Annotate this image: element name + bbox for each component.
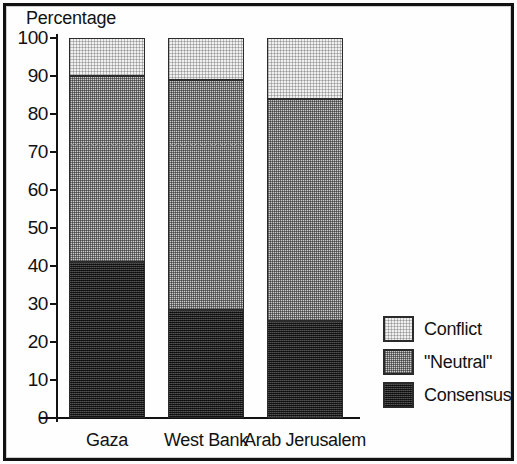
legend-label-consensus: Consensus [424, 384, 511, 406]
legend-label-conflict: Conflict [424, 318, 482, 340]
y-tick-label: 90 [8, 66, 48, 85]
y-tick-mark [50, 341, 57, 343]
y-tick-label: 80 [8, 104, 48, 123]
legend-swatch-consensus [383, 382, 414, 408]
bar-segment-neutral [69, 76, 145, 262]
y-tick-mark [50, 379, 57, 381]
legend-item-conflict: Conflict [383, 316, 513, 349]
y-tick-mark [50, 151, 57, 153]
y-tick-label: 60 [8, 180, 48, 199]
bar-segment-consensus [267, 321, 343, 418]
legend-item-neutral: "Neutral" [383, 349, 513, 382]
bar-segment-conflict [267, 38, 343, 99]
y-tick-mark [50, 113, 57, 115]
y-tick-label: 30 [8, 294, 48, 313]
y-tick-mark [50, 189, 57, 191]
reference-line [71, 144, 143, 146]
legend-item-consensus: Consensus [383, 382, 513, 415]
y-tick-label: 40 [8, 256, 48, 275]
y-tick-mark [50, 417, 57, 419]
chart-figure: Percentage 0102030405060708090100 GazaWe… [0, 0, 517, 464]
y-tick-mark [50, 265, 57, 267]
legend: Conflict"Neutral"Consensus [383, 316, 513, 415]
x-axis-label-arab-jerusalem: Arab Jerusalem [230, 430, 380, 450]
y-tick-label: 10 [8, 370, 48, 389]
y-tick-label: 70 [8, 142, 48, 161]
bar-segment-conflict [168, 38, 244, 80]
y-axis-ticks: 0102030405060708090100 [0, 0, 48, 464]
y-tick-label: 20 [8, 332, 48, 351]
legend-swatch-conflict [383, 316, 414, 342]
y-tick-mark [50, 37, 57, 39]
bar-segment-neutral [168, 80, 244, 310]
y-tick-mark [50, 227, 57, 229]
bar-segment-conflict [69, 38, 145, 76]
bar-segment-consensus [168, 310, 244, 418]
legend-swatch-neutral [383, 349, 414, 375]
y-tick-label: 0 [8, 408, 48, 427]
y-tick-label: 100 [8, 28, 48, 47]
bar-segment-neutral [267, 99, 343, 321]
bar-segment-consensus [69, 262, 145, 418]
y-tick-label: 50 [8, 218, 48, 237]
y-tick-mark [50, 303, 57, 305]
y-tick-mark [50, 75, 57, 77]
legend-label-neutral: "Neutral" [424, 351, 492, 373]
reference-line [170, 144, 242, 146]
